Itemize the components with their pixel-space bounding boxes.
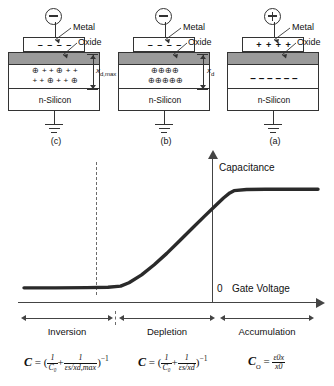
equals-sign: = xyxy=(149,356,155,368)
equals-sign: = xyxy=(263,355,269,367)
metal-label: Metal xyxy=(183,22,205,32)
silicon-substrate: n-Silicon xyxy=(227,89,319,111)
ground-lead xyxy=(273,111,274,125)
metal-label: Metal xyxy=(73,22,95,32)
oxide-label: Oxide xyxy=(188,37,212,47)
metal-gate-charges: – – – – xyxy=(24,38,86,53)
oxide-label: Oxide xyxy=(297,37,321,47)
depletion-layer: ⊕++⊕++ ++⊕++⊕ xyxy=(8,65,100,89)
xd-cap-bottom xyxy=(197,89,208,90)
formula-oxide-capacitance: CO = ε0xx0 xyxy=(248,354,285,372)
ground-icon-bar3 xyxy=(161,132,167,133)
subscript-o: O xyxy=(256,363,261,370)
panel-tag-a: (a) xyxy=(219,136,331,146)
depletion-charge-row-1: ⊕⊕⊕⊕ xyxy=(119,67,211,75)
gate-lead xyxy=(165,22,166,38)
ground-icon xyxy=(264,124,282,125)
xd-dimension-line xyxy=(203,55,204,89)
silicon-substrate: n-Silicon xyxy=(118,89,210,111)
origin-label: 0 xyxy=(217,283,223,294)
silicon-substrate: n-Silicon xyxy=(8,89,100,111)
ground-lead xyxy=(164,111,165,125)
ground-icon-bar2 xyxy=(159,128,170,129)
inversion-span-line xyxy=(26,318,108,319)
substrate-label: n-Silicon xyxy=(228,89,320,111)
panel-tag-c: (c) xyxy=(0,136,112,146)
depletion-span-line xyxy=(124,318,210,319)
capacitance-voltage-chart: Capacitance 0 Gate Voltage xyxy=(0,150,334,310)
region-label-inversion: Inversion xyxy=(21,326,113,337)
accumulation-layer: – – – – – – xyxy=(227,65,319,89)
x-axis-label: Gate Voltage xyxy=(232,283,290,294)
mos-diagram-accumulation: + + + + – – – – – – n-Silicon Metal Oxid… xyxy=(219,0,331,140)
formula-inversion: C = (1C₀+1εs/xd,max)−1 xyxy=(24,354,109,372)
fraction-one-over-es-xd: 1εs/xd xyxy=(178,354,196,372)
xdmax-cap-top xyxy=(87,54,98,55)
oxide-label: Oxide xyxy=(78,37,102,47)
depletion-charge-row-1: ⊕++⊕++ xyxy=(9,67,101,75)
exponent-minus-one: −1 xyxy=(101,354,109,363)
gate-terminal-minus-icon xyxy=(45,8,62,25)
metal-gate-plate: – – – – xyxy=(23,37,85,52)
y-axis-label: Capacitance xyxy=(219,162,275,173)
exponent-minus-one: −1 xyxy=(199,354,207,363)
formula-depletion: C = (1C₀+1εs/xd)−1 xyxy=(138,354,207,372)
region-annotations: Inversion Depletion Accumulation xyxy=(0,310,334,344)
region-label-depletion: Depletion xyxy=(119,326,215,337)
metal-gate-plate: + + + + xyxy=(242,37,304,52)
gate-lead xyxy=(55,22,56,38)
xd-cap-top xyxy=(197,54,208,55)
depletion-charge-row-2: ++⊕++⊕ xyxy=(9,77,101,85)
equals-sign: = xyxy=(35,356,41,368)
accumulation-electron-row: – – – – – – xyxy=(228,73,320,84)
metal-label: Metal xyxy=(292,22,314,32)
accumulation-span-line xyxy=(225,318,309,319)
fraction-eox-over-x0: ε0xx0 xyxy=(272,354,285,372)
depletion-charge-row-2: ⊕⊕⊕⊕⊕ xyxy=(119,77,211,85)
region-divider-tick xyxy=(115,311,116,325)
panel-tag-b: (b) xyxy=(110,136,222,146)
xd-label: xd xyxy=(207,66,214,77)
region-label-accumulation: Accumulation xyxy=(220,326,314,337)
fraction-one-over-c0: 1C₀ xyxy=(161,354,171,372)
ground-icon-bar3 xyxy=(270,132,276,133)
metal-gate-charges: + + + + xyxy=(243,38,305,53)
mos-diagram-depletion: – – – – ⊕⊕⊕⊕ ⊕⊕⊕⊕⊕ n-Silicon Metal Oxide xyxy=(110,0,222,140)
inversion-arrow-right xyxy=(108,315,113,321)
xd-arrow-top xyxy=(200,55,206,59)
ground-icon-bar2 xyxy=(268,128,279,129)
metal-gate-plate: – – – – xyxy=(133,37,195,52)
ground-lead xyxy=(54,111,55,125)
substrate-label: n-Silicon xyxy=(9,89,101,111)
xdmax-dimension-line xyxy=(93,55,94,89)
metal-gate-charges: – – – – xyxy=(134,38,196,53)
fraction-one-over-es-xdmax: 1εs/xd,max xyxy=(64,354,97,372)
mos-diagram-inversion: – – – – ⊕++⊕++ ++⊕++⊕ n-Silicon Metal Ox… xyxy=(0,0,112,140)
gate-terminal-plus-icon xyxy=(264,8,281,25)
oxide-layer xyxy=(227,52,319,65)
capacitance-formulas: C = (1C₀+1εs/xd,max)−1 C = (1C₀+1εs/xd)−… xyxy=(0,344,334,384)
ground-icon-bar3 xyxy=(51,132,57,133)
xdmax-cap-bottom xyxy=(87,89,98,90)
fraction-one-over-c0: 1C₀ xyxy=(47,354,57,372)
accumulation-arrow-right xyxy=(309,315,314,321)
substrate-label: n-Silicon xyxy=(119,89,211,111)
xdmax-arrow-top xyxy=(90,55,96,59)
ground-icon xyxy=(45,124,63,125)
ground-icon-bar2 xyxy=(49,128,60,129)
gate-terminal-minus-icon xyxy=(155,8,172,25)
gate-lead xyxy=(274,22,275,38)
ground-icon xyxy=(155,124,173,125)
depletion-layer: ⊕⊕⊕⊕ ⊕⊕⊕⊕⊕ xyxy=(118,65,210,89)
depletion-arrow-right xyxy=(210,315,215,321)
mos-capacitance-figure: – – – – ⊕++⊕++ ++⊕++⊕ n-Silicon Metal Ox… xyxy=(0,0,334,386)
